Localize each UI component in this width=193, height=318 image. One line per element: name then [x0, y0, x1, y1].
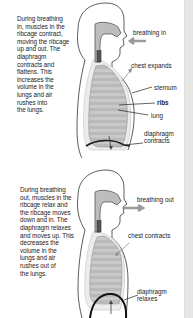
chest-expands-label: chest expands	[131, 62, 172, 69]
exhale-breathing-arrow	[124, 205, 143, 211]
breathing-out-label: breathing out	[137, 196, 174, 203]
chest-contracts-label: chest contracts	[128, 232, 170, 239]
diaphragm-label-line: diaphragm	[144, 130, 174, 137]
inhale-diaphragm-label: diaphragm contracts	[144, 130, 174, 144]
exhale-diaphragm-label: diaphragm relaxes	[137, 288, 167, 302]
diaphragm-label-line: diaphragm	[137, 288, 167, 295]
inhale-chest-arrow	[122, 70, 131, 81]
exhale-diaphragm-leader	[124, 295, 138, 300]
breathing-diagram	[0, 0, 193, 318]
sternum-label: sternum	[154, 84, 177, 91]
sternum-leader	[132, 87, 152, 93]
lung-label: lung	[151, 112, 163, 119]
exhale-figure	[77, 170, 143, 318]
diaphragm-state-line: contracts	[144, 137, 174, 144]
ribs-label: ribs	[157, 99, 169, 106]
diaphragm-state-line: relaxes	[137, 295, 167, 302]
breathing-in-label: breathing in	[133, 29, 166, 36]
inhale-breathing-arrow	[130, 38, 146, 44]
